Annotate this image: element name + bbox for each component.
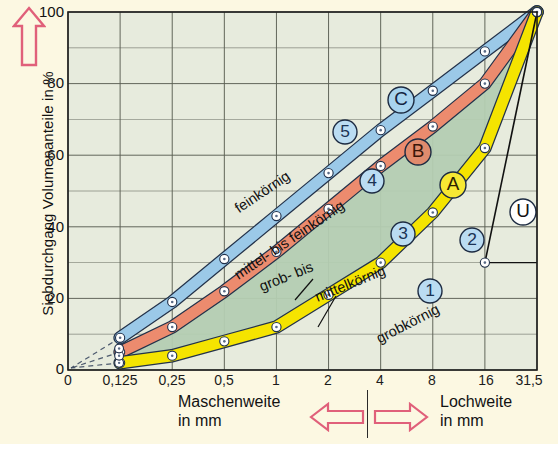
marker-label: B: [412, 140, 425, 161]
page-bottom-strip: [0, 444, 558, 454]
data-point-A: [480, 143, 489, 152]
data-point-C: [376, 126, 385, 135]
marker-3[interactable]: 3: [391, 222, 415, 246]
data-point-B: [480, 79, 489, 88]
data-point-C: [324, 169, 333, 178]
plot-area: feinkörnigmittel- bis feinkörniggrob- bi…: [0, 0, 558, 400]
marker-label: 2: [467, 229, 477, 249]
data-point-A: [168, 351, 177, 360]
chart-page: Siebdurchgang Volumenanteile in % 100 80…: [0, 0, 558, 454]
marker-label: U: [516, 200, 530, 221]
marker-label: 5: [340, 121, 350, 141]
marker-4[interactable]: 4: [360, 169, 384, 193]
data-point-A: [428, 208, 437, 217]
data-point-C: [272, 211, 281, 220]
data-point-C: [168, 297, 177, 306]
x-axis-label-right: Lochweite in mm: [440, 392, 512, 430]
left-arrow-icon: [308, 400, 366, 434]
x-axis-label-left-line2: in mm: [178, 411, 280, 430]
data-point-C: [480, 47, 489, 56]
data-point-C: [428, 86, 437, 95]
marker-U[interactable]: U: [510, 199, 536, 225]
x-axis-label-left: Maschenweite in mm: [178, 392, 280, 430]
marker-label: A: [447, 173, 460, 194]
marker-C[interactable]: C: [388, 87, 414, 113]
x-axis-label-right-line2: in mm: [440, 411, 512, 430]
marker-B[interactable]: B: [405, 139, 431, 165]
data-point-C: [116, 333, 125, 342]
marker-2[interactable]: 2: [460, 228, 484, 252]
marker-label: C: [394, 88, 408, 109]
data-point-B: [376, 161, 385, 170]
marker-5[interactable]: 5: [333, 120, 357, 144]
data-point-U: [480, 258, 489, 267]
data-point-A: [220, 337, 229, 346]
x-axis-label-left-line1: Maschenweite: [178, 392, 280, 411]
marker-label: 1: [425, 280, 435, 300]
right-arrow-icon: [372, 400, 430, 434]
x-axis-label-right-line1: Lochweite: [440, 392, 512, 411]
marker-1[interactable]: 1: [418, 279, 442, 303]
marker-label: 4: [367, 170, 377, 190]
marker-label: 3: [398, 223, 408, 243]
data-point-B: [168, 322, 177, 331]
data-point-B: [220, 287, 229, 296]
data-point-A: [272, 322, 281, 331]
data-point-B: [428, 122, 437, 131]
axis-divider: [367, 390, 368, 438]
marker-A[interactable]: A: [440, 172, 466, 198]
data-point-start: [115, 344, 124, 353]
data-point-C: [220, 254, 229, 263]
